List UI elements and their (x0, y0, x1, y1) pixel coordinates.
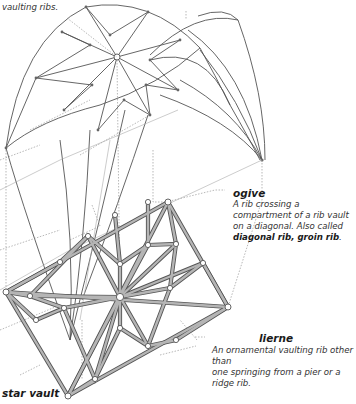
ogive-aliases: diagonal rib, groin rib (233, 232, 339, 242)
lierne-annotation: lierne (259, 332, 356, 344)
lierne-term: lierne (259, 332, 356, 344)
ogive-term: ogive (233, 187, 356, 199)
vaulting-ribs-fragment: vaulting ribs. (2, 2, 58, 13)
projection-lines (0, 11, 262, 380)
ogive-definition: A rib crossing a compartment of a rib va… (233, 199, 356, 243)
ogive-annotation: ogive A rib crossing a compartment of a … (233, 187, 356, 243)
lierne-definition: An ornamental vaulting rib other than on… (212, 345, 356, 389)
vault-3d-bosses (5, 6, 264, 162)
star-vault-caption: star vault (2, 387, 59, 399)
